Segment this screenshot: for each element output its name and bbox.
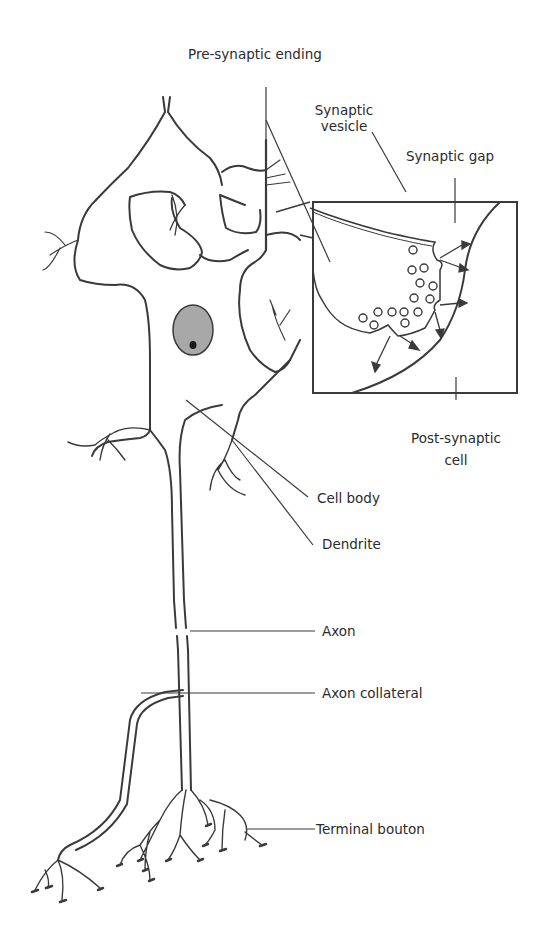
neuron-diagram: Pre-synaptic ending Synaptic vesicle Syn…	[0, 0, 537, 935]
label-terminal-bouton: Terminal bouton	[316, 821, 425, 838]
label-synaptic-vesicle-line1: Synaptic	[310, 102, 378, 119]
label-synaptic-vesicle-line2: vesicle	[310, 118, 378, 135]
label-dendrite: Dendrite	[322, 536, 381, 553]
label-synaptic-gap: Synaptic gap	[406, 148, 494, 165]
label-axon-collateral: Axon collateral	[322, 685, 423, 702]
label-post-synaptic-cell-line1: Post-synaptic	[402, 430, 510, 447]
label-cell-body: Cell body	[317, 490, 380, 507]
label-pre-synaptic-ending: Pre-synaptic ending	[188, 46, 322, 63]
label-post-synaptic-cell-line2: cell	[402, 452, 510, 469]
label-axon: Axon	[322, 623, 356, 640]
